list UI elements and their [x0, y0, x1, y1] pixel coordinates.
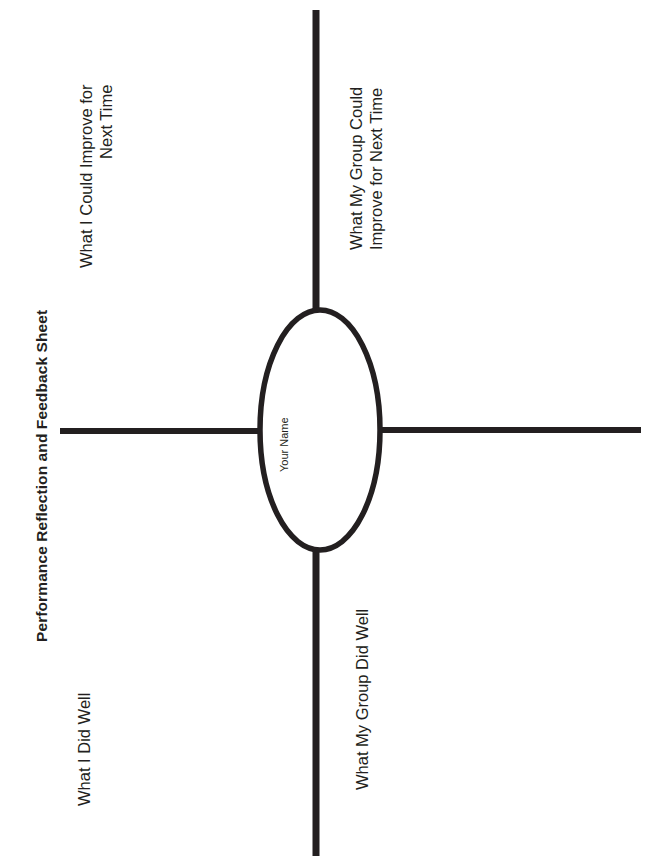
worksheet-page: Performance Reflection and Feedback Shee…	[0, 0, 654, 865]
branch-label-did-well-group: What My Group Did Well	[352, 609, 372, 790]
branch-label-did-well-self: What I Did Well	[74, 693, 94, 806]
center-ellipse-label: Your Name	[278, 417, 291, 472]
branch-label-improve-group: What My Group Could Improve for Next Tim…	[346, 87, 386, 250]
branch-label-improve-self: What I Could Improve for Next Time	[76, 85, 116, 268]
page-title: Performance Reflection and Feedback Shee…	[33, 310, 52, 642]
